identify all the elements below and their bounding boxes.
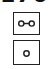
single-circle-icon xyxy=(14,41,39,64)
connector-symbol-box xyxy=(13,12,40,35)
single-circle-symbol-box xyxy=(13,40,40,65)
partial-header-text: 170 xyxy=(0,0,50,4)
two-circles-connected-icon xyxy=(14,13,39,34)
